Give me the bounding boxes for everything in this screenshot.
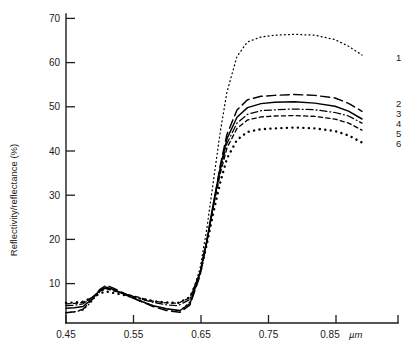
curve-6 xyxy=(66,128,362,303)
curve-1 xyxy=(66,34,362,312)
y-tick-label-40: 40 xyxy=(49,146,61,157)
x-tick-075: 0.75 xyxy=(259,315,279,340)
y-tick-label-30: 30 xyxy=(49,190,61,201)
curve-labels-group: 1 2 3 4 5 6 xyxy=(396,52,401,149)
x-tick-label-085: 0.85 xyxy=(320,329,340,340)
y-tick-label-60: 60 xyxy=(49,57,61,68)
x-tick-045: 0.45 xyxy=(56,315,76,340)
x-tick-label-055: 0.55 xyxy=(124,329,144,340)
y-tick-label-20: 20 xyxy=(49,234,61,245)
y-axis-ticks: 70 60 50 40 30 20 xyxy=(49,13,75,289)
x-tick-085: 0.85 xyxy=(320,315,340,340)
x-axis-ticks: 0.45 0.55 0.65 0.75 0.85 µm xyxy=(56,315,398,340)
y-tick-label-10: 10 xyxy=(49,278,61,289)
y-tick-60: 60 xyxy=(49,57,75,68)
y-tick-20: 20 xyxy=(49,234,75,245)
y-tick-10: 10 xyxy=(49,278,75,289)
x-tick-065: 0.65 xyxy=(191,315,211,340)
x-tick-055: 0.55 xyxy=(124,315,144,340)
curve-label-1: 1 xyxy=(396,52,401,63)
reflectance-spectra-chart: Reflectivity/reflectance (%) 70 60 50 40 xyxy=(0,0,410,350)
x-tick-label-065: 0.65 xyxy=(191,329,211,340)
x-tick-label-045: 0.45 xyxy=(56,329,76,340)
curves-group xyxy=(66,34,362,312)
y-tick-label-50: 50 xyxy=(49,101,61,112)
y-tick-label-70: 70 xyxy=(49,13,61,24)
x-axis-unit-label: µm xyxy=(349,329,362,340)
y-tick-30: 30 xyxy=(49,190,75,201)
y-tick-40: 40 xyxy=(49,146,75,157)
y-axis-label: Reflectivity/reflectance (%) xyxy=(8,144,19,256)
curve-label-6: 6 xyxy=(396,138,401,149)
x-tick-label-075: 0.75 xyxy=(259,329,279,340)
y-tick-70: 70 xyxy=(49,13,75,24)
chart-figure: Reflectivity/reflectance (%) 70 60 50 40 xyxy=(0,0,410,350)
y-tick-50: 50 xyxy=(49,101,75,112)
curve-4 xyxy=(66,109,362,306)
axes xyxy=(66,14,398,323)
